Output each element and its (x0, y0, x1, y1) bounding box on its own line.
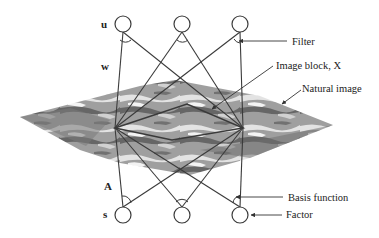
factor-node (232, 207, 248, 223)
filter-node (174, 16, 190, 32)
filter-node (115, 16, 131, 32)
natural-image (20, 80, 333, 175)
annotation-image-block: Image block, X (276, 60, 341, 71)
filter-arc (177, 40, 188, 42)
top-layer-u (115, 16, 248, 43)
natural-image-pointer (282, 90, 301, 104)
annotation-factor: Factor (286, 209, 313, 220)
basis-arc (122, 196, 131, 203)
label-w: w (101, 60, 109, 72)
factor-node (174, 207, 190, 223)
annotation-basis-function: Basis function (288, 192, 349, 203)
annotation-natural-image: Natural image (302, 83, 362, 94)
label-A: A (104, 180, 112, 192)
diagram-canvas: u w A s Filter Image block, X Natural im… (0, 0, 379, 238)
factor-node (115, 207, 131, 223)
label-u: u (101, 18, 107, 30)
label-s: s (103, 208, 108, 220)
annotation-filter: Filter (292, 36, 315, 47)
filter-node (232, 16, 248, 32)
